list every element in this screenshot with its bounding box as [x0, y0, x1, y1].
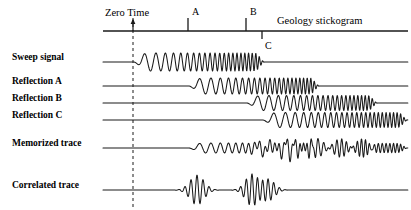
zero-time-label: Zero Time	[105, 7, 149, 18]
trace-reflection-b	[103, 96, 408, 111]
row-label-reflection-a: Reflection A	[12, 76, 62, 86]
row-label-memorized-trace: Memorized trace	[12, 138, 81, 148]
axis-tick-label-a: A	[192, 6, 199, 17]
row-label-correlated-trace: Correlated trace	[12, 180, 79, 190]
diagram-canvas	[0, 0, 411, 210]
axis-tick-label-c: C	[265, 40, 272, 51]
trace-sweep-signal	[103, 53, 408, 71]
geology-stickogram-title: Geology stickogram	[277, 15, 362, 26]
axis-tick-label-b: B	[250, 6, 257, 17]
row-label-sweep-signal: Sweep signal	[12, 52, 64, 62]
seismic-vibroseis-diagram: ABCSweep signalReflection AReflection BR…	[0, 0, 411, 210]
row-label-reflection-b: Reflection B	[12, 93, 62, 103]
trace-correlated-trace	[103, 174, 408, 205]
trace-reflection-a	[103, 78, 408, 94]
row-label-reflection-c: Reflection C	[12, 110, 62, 120]
trace-reflection-c	[103, 113, 408, 128]
trace-memorized-trace	[103, 138, 408, 161]
